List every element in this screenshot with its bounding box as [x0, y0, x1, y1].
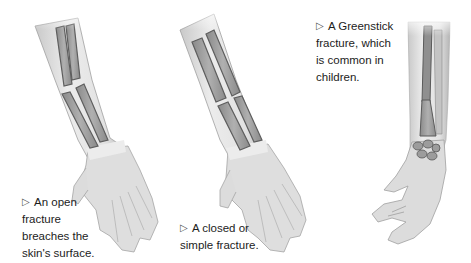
- caption-text: A Greenstick: [328, 20, 393, 32]
- caption-line: ▷A closed or: [180, 220, 280, 237]
- pointer-arrow-icon: ▷: [180, 219, 188, 236]
- caption-line: ▷A Greenstick: [316, 18, 416, 35]
- radius-upper: [422, 26, 432, 102]
- caption-greenstick-fracture: ▷A Greenstick fracture, which is common …: [316, 18, 416, 86]
- caption-line: fracture, which: [316, 35, 416, 52]
- caption-line: fracture: [22, 211, 112, 228]
- caption-open-fracture: ▷An open fracture breaches the skin's su…: [22, 194, 112, 262]
- caption-line: children.: [316, 69, 416, 86]
- fade-overlay: [20, 0, 120, 30]
- caption-line: skin's surface.: [22, 245, 112, 262]
- pointer-arrow-icon: ▷: [316, 17, 324, 34]
- fade-overlay: [170, 0, 270, 30]
- caption-text: A closed or: [192, 222, 249, 234]
- caption-line: simple fracture.: [180, 237, 280, 254]
- caption-text: An open: [34, 196, 77, 208]
- caption-line: ▷An open: [22, 194, 112, 211]
- caption-closed-fracture: ▷A closed or simple fracture.: [180, 220, 280, 254]
- closed-fracture-arm: [170, 0, 306, 252]
- caption-line: is common in: [316, 52, 416, 69]
- caption-line: breaches the: [22, 228, 112, 245]
- fracture-diagram: ▷An open fracture breaches the skin's su…: [0, 0, 471, 263]
- pointer-arrow-icon: ▷: [22, 193, 30, 210]
